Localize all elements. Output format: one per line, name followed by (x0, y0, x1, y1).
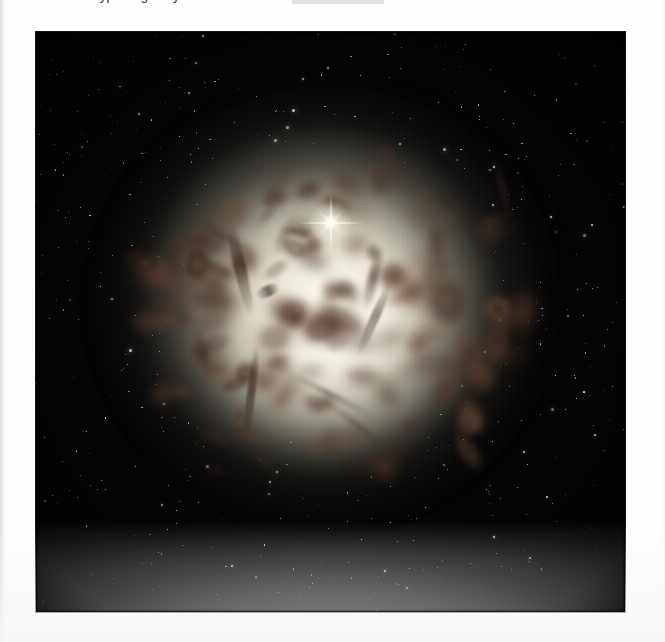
star-kernel (328, 220, 335, 227)
bright-star-icon (295, 187, 367, 259)
scanned-page: type of galaxy Hubble Space Telescope im… (0, 0, 665, 642)
caption-text: type of galaxy (96, 0, 180, 3)
galaxy-nucleus (272, 252, 402, 380)
caption-highlight-mark (292, 0, 384, 4)
galaxy-photo: Hubble Space Telescope image of a giant … (36, 32, 625, 612)
clipped-caption-line: type of galaxy (0, 0, 665, 11)
